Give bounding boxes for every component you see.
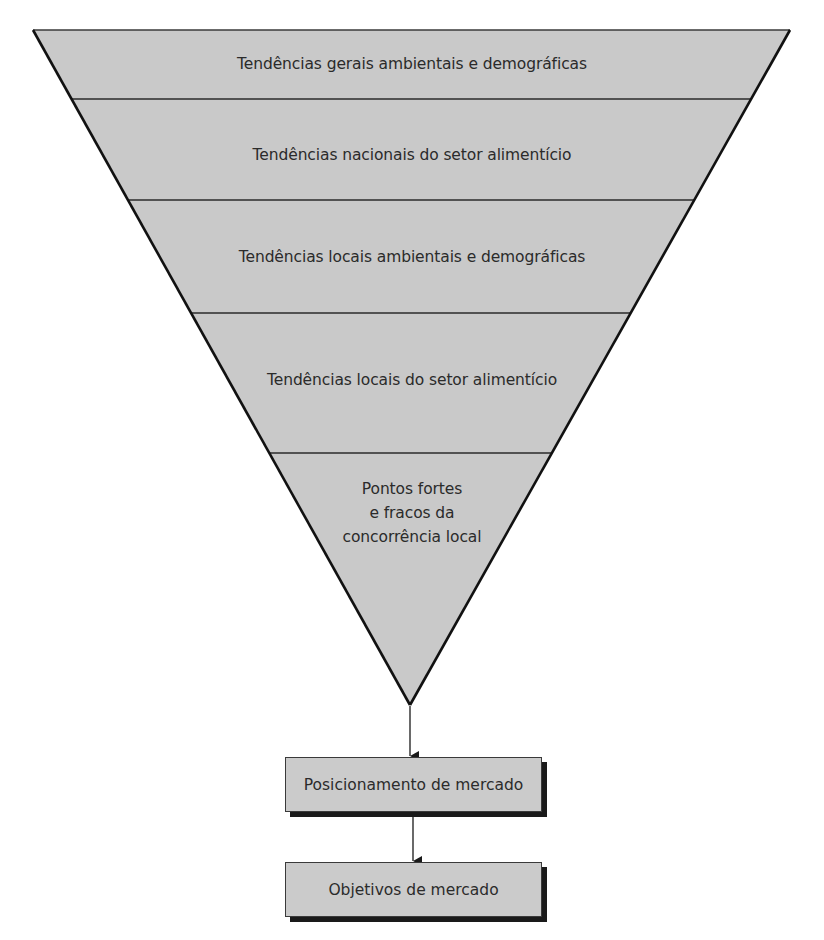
funnel-level-2-label: Tendências nacionais do setor alimentíci… — [0, 143, 824, 167]
funnel-level-3-label: Tendências locais ambientais e demográfi… — [0, 245, 824, 269]
market-positioning-box: Posicionamento de mercado — [285, 757, 542, 812]
funnel-level-4-label: Tendências locais do setor alimentício — [0, 368, 824, 392]
funnel-level-1-label: Tendências gerais ambientais e demográfi… — [0, 52, 824, 76]
market-objectives-label: Objetivos de mercado — [328, 881, 498, 899]
funnel-level-5-label: Pontos fortes e fracos da concorrência l… — [262, 477, 562, 549]
market-positioning-label: Posicionamento de mercado — [304, 776, 524, 794]
market-objectives-box: Objetivos de mercado — [285, 862, 542, 917]
